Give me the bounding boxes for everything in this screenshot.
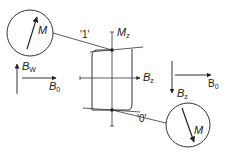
bw-label: B: [22, 60, 29, 72]
svg-text:B0: B0: [49, 80, 60, 93]
svg-text:B0: B0: [208, 78, 219, 90]
state-0-label: '0': [137, 113, 146, 124]
b0-right-sub: 0: [215, 83, 219, 90]
state-0-circle: M: [166, 103, 210, 147]
b0-left-sub: 0: [56, 86, 60, 93]
hysteresis-loop: [83, 47, 143, 112]
state-1-circle: M: [7, 10, 53, 56]
state-1-m-label: M: [38, 24, 48, 36]
svg-text:BW: BW: [22, 60, 36, 73]
hysteresis-diagram: M '1' Mz Bz '0' M BW: [0, 0, 227, 153]
bz-axis-sub: z: [150, 77, 154, 84]
mz-axis-sub: z: [126, 32, 130, 39]
b0-left-label: B: [49, 80, 56, 92]
right-field-arrows: Bz B0: [172, 61, 219, 100]
svg-text:Mz: Mz: [117, 26, 130, 39]
state-0-m-label: M: [194, 124, 204, 136]
left-field-arrows: BW B0: [17, 60, 60, 94]
bz-right-label: B: [177, 87, 184, 99]
remanence-point-1: [110, 48, 114, 52]
magnetization-down-arrow-icon: [182, 108, 194, 142]
state-1-label: '1': [80, 29, 89, 40]
bz-axis-label: B: [143, 71, 150, 83]
svg-text:Bz: Bz: [177, 87, 188, 100]
svg-text:Bz: Bz: [143, 71, 154, 84]
magnetization-up-arrow-icon: [27, 17, 37, 49]
bz-right-sub: z: [184, 93, 188, 100]
bz-axis: Bz: [80, 71, 154, 84]
bw-sub: W: [29, 66, 36, 73]
